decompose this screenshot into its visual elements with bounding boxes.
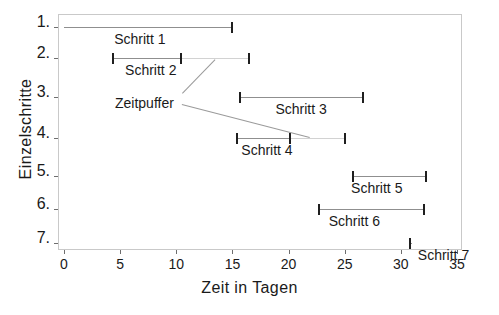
bar-label: Schritt 3 (275, 101, 326, 117)
bar-end-cap (112, 53, 114, 64)
y-tick-label: 7. (24, 229, 50, 247)
bar-end-cap (248, 53, 250, 64)
x-tick-label: 10 (156, 256, 196, 272)
x-tick-mark (401, 250, 402, 254)
plot-area (58, 14, 462, 250)
bar-label: Schritt 7 (418, 247, 469, 263)
bar-duration-segment (113, 58, 180, 59)
bar-end-cap (423, 204, 425, 215)
x-tick-label: 0 (44, 256, 84, 272)
bar-label: Schritt 1 (114, 31, 165, 47)
bar-end-cap (318, 204, 320, 215)
y-tick-label: 2. (24, 44, 50, 62)
x-tick-label: 15 (212, 256, 252, 272)
x-tick-label: 5 (100, 256, 140, 272)
y-tick-mark (54, 209, 58, 210)
bar-end-cap (425, 171, 427, 182)
bar-duration-segment (240, 97, 362, 98)
gantt-chart: Einzelschritte Zeit in Tagen 05101520253… (0, 0, 499, 315)
bar-end-cap (239, 92, 241, 103)
y-tick-mark (54, 243, 58, 244)
bar-duration-segment (64, 27, 232, 28)
bar-end-cap (180, 53, 182, 64)
y-tick-mark (54, 176, 58, 177)
bar-duration-segment (319, 209, 425, 210)
bar-label: Schritt 6 (329, 213, 380, 229)
bar-label: Schritt 4 (241, 142, 292, 158)
y-tick-mark (54, 58, 58, 59)
bar-label: Schritt 5 (351, 180, 402, 196)
bar-end-cap (236, 133, 238, 144)
y-tick-label: 4. (24, 124, 50, 142)
x-tick-mark (289, 250, 290, 254)
bar-end-cap (344, 133, 346, 144)
bar-duration-segment (237, 138, 290, 139)
y-tick-label: 1. (24, 13, 50, 31)
y-tick-mark (54, 27, 58, 28)
x-tick-label: 25 (325, 256, 365, 272)
bar-duration-segment (353, 176, 426, 177)
y-tick-label: 3. (24, 83, 50, 101)
bar-end-cap (362, 92, 364, 103)
y-tick-label: 6. (24, 195, 50, 213)
x-tick-label: 30 (381, 256, 421, 272)
bar-label: Schritt 2 (125, 62, 176, 78)
x-tick-mark (232, 250, 233, 254)
x-tick-mark (345, 250, 346, 254)
x-tick-mark (176, 250, 177, 254)
bar-end-cap (231, 22, 233, 33)
x-axis-title: Zeit in Tagen (0, 279, 499, 297)
y-tick-mark (54, 97, 58, 98)
x-tick-mark (120, 250, 121, 254)
zeitpuffer-annotation: Zeitpuffer (115, 95, 174, 111)
y-tick-mark (54, 138, 58, 139)
bar-buffer-segment (290, 138, 345, 139)
y-tick-label: 5. (24, 162, 50, 180)
bar-end-cap (409, 238, 411, 249)
x-tick-mark (64, 250, 65, 254)
x-tick-label: 20 (269, 256, 309, 272)
